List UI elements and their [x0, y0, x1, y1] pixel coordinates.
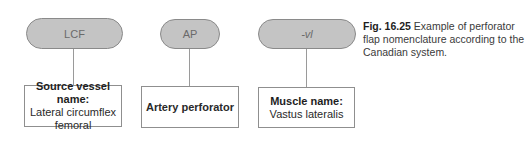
box-artery-perforator: Artery perforator — [141, 86, 239, 128]
pill-ap: AP — [160, 19, 220, 49]
box-muscle-name-title: Muscle name: — [270, 95, 343, 108]
box-muscle-name-line1: Vastus lateralis — [270, 108, 344, 121]
box-artery-perforator-text: Artery perforator — [146, 101, 234, 114]
pill-lcf: LCF — [26, 18, 123, 49]
box-source-vessel-line2: femoral — [55, 119, 92, 132]
pill-vl-label: -vl — [301, 28, 313, 40]
pill-lcf-label: LCF — [64, 28, 85, 40]
box-source-vessel-title: Source vessel name: — [25, 80, 121, 106]
box-source-vessel: Source vessel name: Lateral circumflex f… — [24, 85, 122, 127]
figure-caption: Fig. 16.25Example of perforator flap nom… — [363, 20, 529, 59]
pill-vl: -vl — [258, 19, 356, 49]
connector-vl — [306, 49, 307, 87]
connector-ap — [189, 49, 190, 86]
box-source-vessel-line1: Lateral circumflex — [30, 106, 116, 119]
pill-ap-label: AP — [183, 28, 198, 40]
box-muscle-name: Muscle name: Vastus lateralis — [258, 87, 355, 128]
figure-label: Fig. 16.25 — [363, 20, 411, 32]
